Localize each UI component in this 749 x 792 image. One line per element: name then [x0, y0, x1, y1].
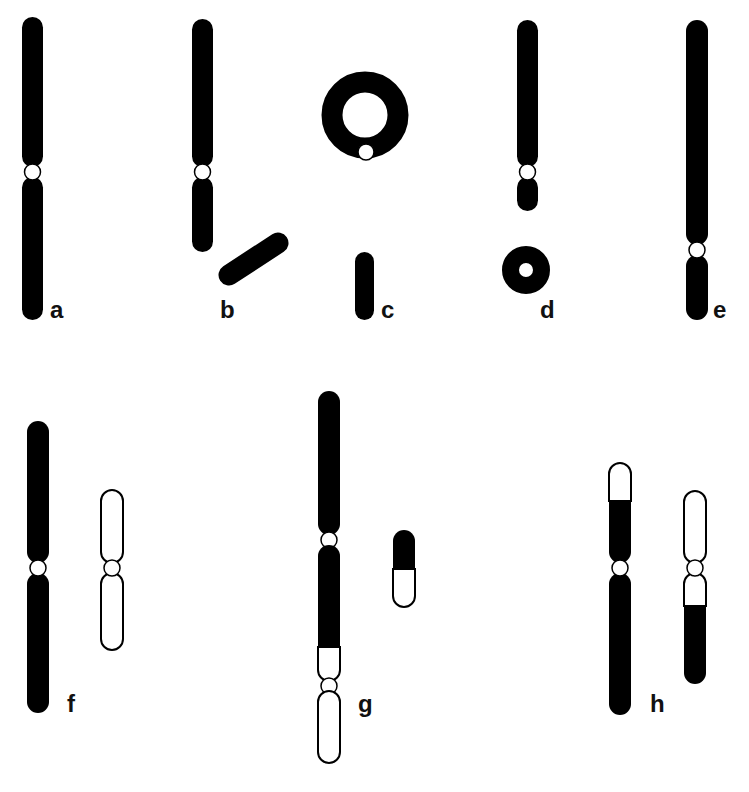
chromosome-b-p-arm: [192, 19, 213, 167]
panel-label-h: h: [650, 690, 665, 717]
centromere-h-2: [687, 560, 703, 576]
panel-f: f: [27, 421, 123, 717]
chromosome-a-p-arm: [22, 17, 43, 167]
panel-b: b: [192, 19, 278, 323]
chromosome-f-white-q-arm: [101, 573, 123, 650]
chromosome-f-black-q-arm: [27, 573, 49, 713]
panel-label-d: d: [540, 296, 555, 323]
panel-a: a: [22, 17, 64, 323]
centromere-f-black: [30, 560, 46, 576]
centromere-d: [520, 164, 536, 180]
acentric-fragment-g: [393, 530, 415, 607]
panel-label-c: c: [381, 296, 394, 323]
acentric-ring-d: [511, 255, 542, 286]
centromere-e: [689, 242, 705, 258]
panel-label-b: b: [220, 296, 235, 323]
panel-g: g: [318, 391, 415, 763]
translocation-chromosome-h-2: [684, 491, 706, 684]
panel-label-g: g: [358, 690, 373, 717]
ring-chromosome-c: [332, 82, 398, 148]
chromosome-f-black-p-arm: [27, 421, 49, 563]
chromosome-g-arm-white: [318, 691, 340, 763]
centromere-b: [195, 164, 211, 180]
chromosome-b-q-arm: [192, 177, 213, 252]
chromosome-d-q-arm: [517, 177, 538, 211]
panel-d: d: [511, 20, 555, 323]
chromosome-f-white-p-arm: [101, 490, 123, 563]
panel-e: e: [686, 20, 726, 323]
acentric-fragment-b: [229, 243, 278, 275]
panel-label-f: f: [67, 690, 76, 717]
centromere-a: [25, 164, 41, 180]
chromosome-g-arm-1: [318, 391, 340, 535]
centromere-f-white: [104, 560, 120, 576]
panel-label-a: a: [50, 296, 64, 323]
chromosome-figure: a b c d e f: [0, 0, 749, 792]
chromosome-e-p-arm: [686, 20, 708, 245]
centromere-h-1: [612, 560, 628, 576]
acentric-fragment-c: [355, 252, 374, 320]
chromosome-g-middle-segment: [318, 545, 340, 681]
panel-label-e: e: [713, 296, 726, 323]
centromere-c: [358, 144, 374, 160]
panel-h: h: [609, 463, 706, 717]
chromosome-d-p-arm: [517, 20, 538, 167]
translocation-chromosome-h-1: [609, 463, 631, 715]
chromosome-a-q-arm: [22, 177, 43, 320]
chromosome-e-q-arm: [686, 255, 708, 320]
panel-c: c: [332, 82, 398, 323]
